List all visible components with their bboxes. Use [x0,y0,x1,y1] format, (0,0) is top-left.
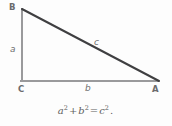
vertex-label-b: B [9,3,15,12]
side-label-a: a [10,45,16,54]
equation-equals-operator: = [89,105,99,116]
pythagorean-theorem-figure: B C A a b c a2+b2=c2. [0,0,172,126]
vertex-label-a: A [152,85,159,94]
vertex-label-c: C [18,85,24,94]
side-label-c: c [94,38,99,47]
side-label-b: b [85,84,91,93]
triangle-side-c-hypotenuse-line [22,9,159,81]
equation-plus-operator: + [68,105,78,116]
pythagorean-equation: a2+b2=c2. [0,104,172,118]
equation-period: . [109,105,114,116]
